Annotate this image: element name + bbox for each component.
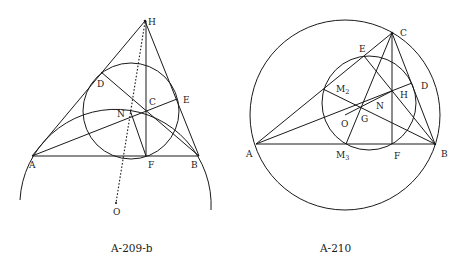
label-o: O bbox=[113, 207, 120, 217]
label-a: A bbox=[245, 149, 253, 159]
point-o bbox=[115, 202, 117, 204]
label-n: N bbox=[117, 109, 125, 119]
line-d-b bbox=[101, 72, 199, 156]
label-m3: M3 bbox=[336, 150, 349, 162]
line-a-h bbox=[32, 21, 145, 156]
label-a: A bbox=[28, 160, 36, 170]
label-m2: M2 bbox=[336, 84, 349, 96]
label-d: D bbox=[421, 81, 428, 91]
caption-a-210: A-210 bbox=[319, 242, 351, 254]
label-g: G bbox=[361, 114, 368, 124]
point-c bbox=[391, 32, 394, 35]
label-e: E bbox=[183, 95, 190, 105]
point-b bbox=[434, 143, 436, 145]
label-f: F bbox=[394, 151, 400, 161]
figure-a-209-b: H D C E N A F B O A-209-b bbox=[20, 17, 211, 254]
label-h: H bbox=[148, 17, 156, 27]
label-o: O bbox=[341, 119, 348, 129]
label-c: C bbox=[400, 28, 407, 38]
point-h bbox=[144, 20, 147, 23]
label-b: B bbox=[191, 160, 198, 170]
label-h: H bbox=[400, 90, 408, 100]
diagram-canvas: H D C E N A F B O A-209-b C E bbox=[0, 0, 462, 262]
caption-a-209-b: A-209-b bbox=[110, 242, 153, 254]
label-e: E bbox=[359, 44, 366, 54]
line-n-f bbox=[130, 110, 146, 156]
label-f: F bbox=[148, 160, 154, 170]
label-n: N bbox=[376, 101, 384, 111]
line-a-e bbox=[32, 99, 177, 156]
label-d: D bbox=[97, 79, 104, 89]
label-b: B bbox=[441, 149, 448, 159]
label-c: C bbox=[149, 97, 156, 107]
line-c-m3 bbox=[346, 33, 392, 144]
circumcircle-arc bbox=[20, 109, 211, 210]
figure-a-210: C E M2 D H N O G A M3 F B A-210 bbox=[245, 20, 448, 254]
